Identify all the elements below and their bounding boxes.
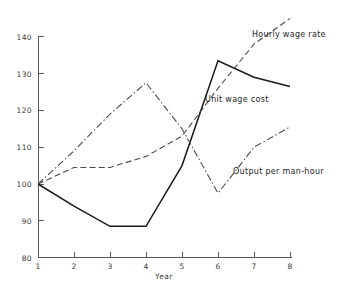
x-axis-tick-label: 5 (179, 262, 184, 271)
y-axis-tick-label: 130 (6, 69, 32, 78)
data-series-lines (38, 18, 290, 226)
x-axis-tick-label: 7 (251, 262, 256, 271)
y-axis-tick-label: 140 (6, 32, 32, 41)
y-axis-tick-label: 120 (6, 106, 32, 115)
axis-ticks (38, 37, 290, 258)
x-axis-tick-label: 4 (143, 262, 148, 271)
chart-container: 8090100110120130140 12345678 Year Unit w… (0, 0, 340, 296)
y-axis-tick-label: 80 (6, 253, 32, 262)
x-axis-tick-label: 1 (35, 262, 40, 271)
axis-lines (38, 37, 292, 258)
x-axis-title: Year (155, 272, 173, 281)
series-line-0 (38, 61, 290, 227)
x-axis-tick-label: 8 (287, 262, 292, 271)
x-axis-tick-label: 6 (215, 262, 220, 271)
series-label-1: Hourly wage rate (252, 30, 326, 39)
y-axis-tick-label: 90 (6, 216, 32, 225)
y-axis-tick-label: 100 (6, 180, 32, 189)
series-label-2: Output per man-hour (233, 167, 324, 176)
x-axis-tick-label: 2 (71, 262, 76, 271)
series-label-0: Unit wage cost (205, 95, 269, 104)
x-axis-tick-label: 3 (107, 262, 112, 271)
y-axis-tick-label: 110 (6, 143, 32, 152)
chart-plot-area (0, 0, 340, 296)
